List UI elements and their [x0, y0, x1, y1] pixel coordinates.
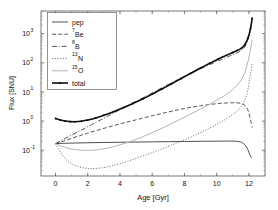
data-point-total: [232, 52, 234, 54]
y-tick-exponent: 1: [31, 85, 34, 91]
data-point-total: [250, 28, 252, 30]
x-tick-label: 6: [150, 180, 154, 187]
data-point-total: [251, 17, 253, 19]
x-tick-label: 0: [54, 180, 58, 187]
data-point-total: [200, 67, 202, 69]
data-point-total: [59, 119, 61, 121]
x-tick-label: 10: [213, 180, 221, 187]
x-tick-label: 4: [118, 180, 122, 187]
legend-label-pep: pep: [72, 19, 84, 27]
data-point-total: [217, 58, 219, 60]
legend-label-13N: N: [78, 55, 83, 62]
data-point-total: [180, 78, 182, 80]
legend-marker-total: [59, 82, 61, 84]
data-point-total: [74, 121, 76, 123]
data-point-total: [161, 88, 163, 90]
data-point-total: [132, 103, 134, 105]
data-point-total: [113, 111, 115, 113]
data-point-total: [122, 107, 124, 109]
data-point-total: [190, 72, 192, 74]
x-tick-label: 2: [86, 180, 90, 187]
data-point-total: [247, 37, 249, 39]
data-point-total: [87, 119, 89, 121]
chart-background: [0, 0, 278, 210]
y-tick-exponent: 0: [31, 114, 34, 120]
x-tick-label: 8: [182, 180, 186, 187]
legend-superscript-13N: 13: [72, 51, 78, 57]
y-axis-label: Flux [SNU]: [8, 76, 16, 110]
y-tick-exponent: 2: [31, 56, 34, 62]
legend-label-7Be: Be: [75, 31, 84, 38]
data-point-total: [237, 49, 239, 51]
data-point-total: [209, 62, 211, 64]
y-tick-label: 10: [22, 59, 30, 66]
x-tick-label: 12: [245, 180, 253, 187]
y-tick-exponent: 3: [31, 27, 34, 33]
data-point-total: [142, 98, 144, 100]
data-point-total: [171, 83, 173, 85]
legend-label-8B: B: [75, 43, 80, 50]
flux-vs-age-chart: 10-1100101102103 024681012 pep7Be8B13N15…: [0, 0, 278, 210]
y-tick-label: 10: [22, 147, 30, 154]
data-point-total: [244, 44, 246, 46]
legend-superscript-15O: 15: [72, 64, 78, 70]
data-point-total: [80, 120, 82, 122]
y-tick-label: 10: [22, 30, 30, 37]
data-point-total: [225, 54, 227, 56]
y-tick-label: 10: [22, 118, 30, 125]
legend-label-15O: O: [78, 67, 84, 74]
data-point-total: [55, 118, 57, 120]
y-tick-label: 10: [22, 89, 30, 96]
data-point-total: [151, 93, 153, 95]
y-tick-exponent: -1: [31, 144, 36, 150]
figure-container: 10-1100101102103 024681012 pep7Be8B13N15…: [0, 0, 278, 210]
x-axis-label: Age [Gyr]: [137, 193, 169, 202]
data-point-total: [69, 121, 71, 123]
data-point-total: [95, 117, 97, 119]
chart-legend: pep7Be8B13N15Ototal: [48, 13, 117, 90]
data-point-total: [241, 47, 243, 49]
legend-label-total: total: [72, 80, 86, 87]
data-point-total: [64, 120, 66, 122]
data-point-total: [103, 114, 105, 116]
